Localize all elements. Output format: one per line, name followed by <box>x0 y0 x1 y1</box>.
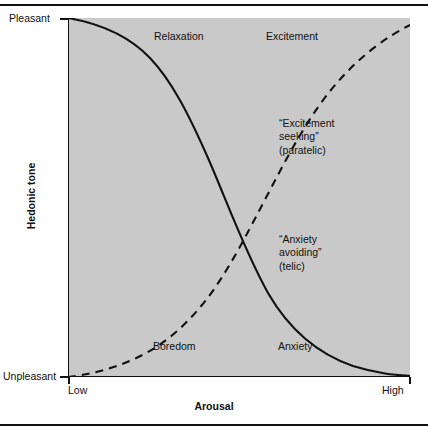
annotation-paratelic: “Excitement seeking” (paratelic) <box>279 117 334 157</box>
y-axis-label-unpleasant: Unpleasant <box>3 371 56 382</box>
annotation-telic-line-1: “Anxiety <box>279 233 322 246</box>
curve-label-anxiety: Anxiety <box>278 341 312 352</box>
y-axis-title: Hedonic tone <box>25 141 37 251</box>
bottom-rule-divider <box>0 424 428 426</box>
annotation-paratelic-line-1: “Excitement <box>279 117 334 130</box>
x-tick-low <box>68 377 70 384</box>
annotation-telic: “Anxiety avoiding” (telic) <box>279 233 322 273</box>
x-axis-label-low: Low <box>68 385 87 396</box>
y-axis-label-pleasant: Pleasant <box>9 13 50 24</box>
curve-label-boredom: Boredom <box>153 341 196 352</box>
annotation-paratelic-line-3: (paratelic) <box>279 144 334 157</box>
annotation-telic-line-2: avoiding” <box>279 246 322 259</box>
paratelic-curve-dashed <box>68 25 410 377</box>
top-rule-divider <box>0 4 428 6</box>
curve-label-excitement: Excitement <box>266 31 318 42</box>
y-tick-unpleasant <box>60 376 68 378</box>
curve-label-relaxation: Relaxation <box>154 31 204 42</box>
x-axis-label-high: High <box>382 385 404 396</box>
figure-container: Pleasant Unpleasant Low High Hedonic ton… <box>0 0 428 433</box>
annotation-telic-line-3: (telic) <box>279 260 322 273</box>
x-tick-high <box>409 377 411 384</box>
annotation-paratelic-line-2: seeking” <box>279 130 334 143</box>
chart-curves <box>68 18 410 377</box>
telic-curve-solid <box>68 18 410 376</box>
x-axis-title: Arousal <box>0 400 428 412</box>
y-tick-pleasant <box>60 18 68 20</box>
